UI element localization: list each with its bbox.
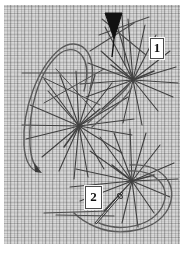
figure-title: Embroidery stitch diagram on woven fabri… [0, 0, 1, 1]
star-cluster-bottom-right [70, 129, 178, 227]
thread-loop-left [24, 44, 93, 171]
step-label-1: 1 [150, 38, 164, 59]
star-cluster-center [22, 71, 134, 179]
step-label-2: 2 [85, 186, 102, 209]
star-cluster-top-right [80, 19, 178, 125]
embroidery-diagram: Embroidery stitch diagram on woven fabri… [0, 0, 186, 254]
